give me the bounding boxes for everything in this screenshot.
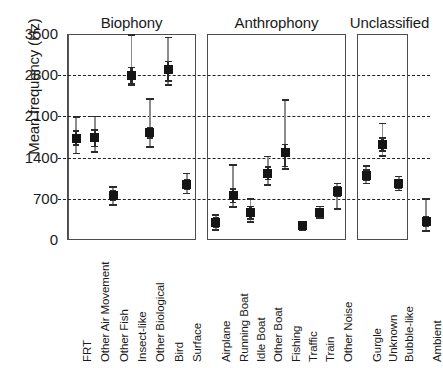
mean-marker: [182, 180, 191, 189]
mean-marker: [315, 208, 324, 217]
whisker-cap: [316, 217, 323, 219]
error-bar-inner-cap: [165, 61, 171, 63]
x-tick-label: Bubble-like: [403, 306, 415, 362]
mean-marker: [145, 128, 154, 137]
error-bar-inner-cap: [73, 130, 79, 132]
x-tick-label: Airplane: [220, 321, 232, 362]
whisker-cap: [109, 186, 116, 188]
mean-marker: [211, 218, 220, 227]
whisker-cap: [379, 155, 386, 157]
error-bar-inner-cap: [128, 67, 134, 69]
whisker-cap: [422, 230, 429, 232]
error-bar-inner-cap: [230, 202, 236, 204]
x-tick-label: Traffic: [307, 331, 319, 362]
mean-marker: [229, 191, 238, 200]
error-whisker: [149, 99, 151, 147]
x-tick-label: Idle Boat: [255, 318, 267, 363]
whisker-cap: [264, 156, 271, 158]
whisker-cap: [146, 98, 153, 100]
mean-marker: [422, 217, 431, 226]
x-tick-label: Other Biological: [154, 282, 166, 362]
x-tick-label: Train: [324, 337, 336, 362]
whisker-cap: [363, 183, 370, 185]
mean-marker: [90, 133, 99, 142]
x-tick-label: Other Air Movement: [99, 262, 111, 362]
whisker-cap: [363, 165, 370, 167]
whisker-cap: [379, 123, 386, 125]
x-tick-label: Unknown: [387, 315, 399, 362]
error-bar-inner-cap: [247, 206, 253, 208]
x-tick-label: Insect-like: [136, 311, 148, 362]
x-tick-label: Ambient: [431, 321, 443, 363]
whisker-cap: [212, 229, 219, 231]
whisker-cap: [282, 99, 289, 101]
whisker-cap: [183, 193, 190, 195]
whisker-cap: [91, 116, 98, 118]
x-tick-label: Other Fish: [118, 309, 130, 362]
mean-marker: [333, 187, 342, 196]
whisker-cap: [334, 183, 341, 185]
whisker-cap: [229, 164, 236, 166]
x-tick-label: FRT: [81, 340, 93, 362]
mean-marker: [246, 208, 255, 217]
error-bar-inner-cap: [247, 218, 253, 220]
x-tick-label: Other Boat: [272, 307, 284, 362]
error-bar-inner-cap: [73, 144, 79, 146]
whisker-cap: [264, 184, 271, 186]
whisker-cap: [146, 146, 153, 148]
mean-marker: [281, 148, 290, 157]
whisker-cap: [282, 168, 289, 170]
whisker-cap: [183, 173, 190, 175]
whisker-cap: [128, 34, 135, 36]
whisker-cap: [395, 176, 402, 178]
mean-marker: [127, 71, 136, 80]
mean-marker: [263, 169, 272, 178]
x-tick-label: Bird: [173, 342, 185, 362]
error-bar-inner-cap: [265, 166, 271, 168]
whisker-cap: [229, 206, 236, 208]
whisker-cap: [91, 151, 98, 153]
whisker-cap: [109, 204, 116, 206]
error-bar-inner-cap: [91, 146, 97, 148]
whisker-cap: [73, 153, 80, 155]
error-bar-inner-cap: [282, 144, 288, 146]
error-bar-inner-cap: [282, 166, 288, 168]
error-bar-inner-cap: [147, 137, 153, 139]
error-bar-inner-cap: [91, 129, 97, 131]
mean-marker: [362, 171, 371, 180]
x-tick-label: Other Noise: [342, 302, 354, 362]
whisker-cap: [73, 116, 80, 118]
mean-marker: [394, 179, 403, 188]
error-bar-inner-cap: [128, 83, 134, 85]
x-tick-label: Gurgle: [371, 328, 383, 362]
whisker-cap: [422, 198, 429, 200]
mean-marker: [298, 221, 307, 230]
mean-marker: [164, 65, 173, 74]
error-bar-inner-cap: [265, 179, 271, 181]
whisker-cap: [334, 208, 341, 210]
whisker-cap: [247, 221, 254, 223]
x-tick-label: Running Boat: [238, 294, 250, 363]
whisker-cap: [165, 37, 172, 39]
whisker-cap: [212, 214, 219, 216]
x-tick-label: Surface: [191, 323, 203, 362]
mean-marker: [72, 134, 81, 143]
mean-marker: [109, 191, 118, 200]
whisker-cap: [247, 198, 254, 200]
error-bar-inner-cap: [165, 80, 171, 82]
whisker-cap: [165, 84, 172, 86]
error-bar-inner-cap: [379, 137, 385, 139]
whisker-cap: [395, 190, 402, 192]
x-tick-label: Fishing: [290, 326, 302, 362]
error-bar-inner-cap: [230, 188, 236, 190]
mean-marker: [378, 140, 387, 149]
error-bar-inner-cap: [379, 150, 385, 152]
